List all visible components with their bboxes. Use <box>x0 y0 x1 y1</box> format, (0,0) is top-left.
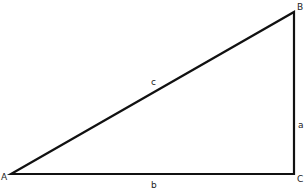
side-label-b: b <box>151 180 157 190</box>
vertex-label-c: C <box>297 174 303 184</box>
side-label-c: c <box>151 77 156 87</box>
side-label-a: a <box>298 120 304 130</box>
triangle-diagram: A B C c b a <box>0 0 304 191</box>
vertex-label-b: B <box>297 2 303 12</box>
vertex-label-a: A <box>1 172 8 182</box>
triangle-shape <box>11 12 294 174</box>
